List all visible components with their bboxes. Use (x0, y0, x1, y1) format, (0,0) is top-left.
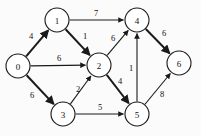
edge-weight-2-5: 4 (118, 76, 123, 86)
node-label-1: 1 (55, 16, 60, 26)
graph-node-6[interactable]: 6 (167, 51, 191, 75)
edge-weight-5-6: 8 (160, 89, 164, 99)
graph-edge-0-to-2 (31, 65, 86, 66)
edge-weight-3-2: 2 (76, 84, 80, 94)
edge-weight-1-4: 7 (94, 8, 98, 18)
edge-weight-0-2: 6 (57, 53, 61, 63)
edge-weight-2-4: 6 (111, 33, 115, 43)
graph-node-3[interactable]: 3 (51, 102, 75, 126)
edge-weight-4-6: 6 (162, 28, 166, 38)
graph-node-0[interactable]: 0 (6, 54, 30, 78)
edge-weight-5-4: 1 (129, 63, 133, 73)
node-label-6: 6 (177, 59, 182, 69)
graph-diagram: 466176425618 0123456 (0, 0, 201, 136)
node-label-4: 4 (135, 16, 140, 26)
graph-node-4[interactable]: 4 (125, 8, 149, 32)
node-label-5: 5 (135, 110, 140, 120)
node-label-3: 3 (61, 110, 66, 120)
graph-node-1[interactable]: 1 (45, 8, 69, 32)
graph-edge-3-to-2 (70, 76, 90, 104)
graph-node-5[interactable]: 5 (125, 102, 149, 126)
node-label-2: 2 (97, 61, 102, 71)
node-label-0: 0 (16, 62, 21, 72)
edge-weight-0-1: 4 (29, 31, 34, 41)
edge-weight-3-5: 5 (98, 102, 102, 112)
graph-node-2[interactable]: 2 (87, 53, 111, 77)
edge-weight-1-2: 1 (83, 31, 87, 41)
graph-canvas: 466176425618 0123456 (0, 0, 201, 136)
edge-weight-0-3: 6 (30, 90, 34, 100)
graph-edge-5-to-6 (145, 73, 170, 104)
